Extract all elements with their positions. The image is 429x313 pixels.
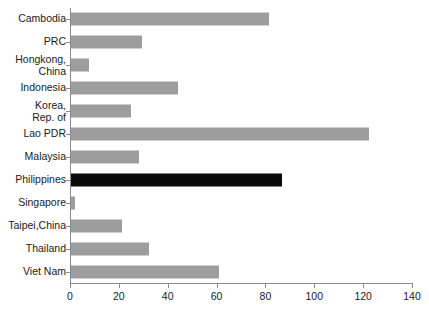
bar-row: Viet Nam — [0, 260, 429, 283]
y-axis-tick — [66, 203, 71, 204]
bar — [71, 82, 178, 95]
x-axis-tick-mark — [217, 283, 218, 288]
x-axis-ticks: 020406080100120140 — [0, 283, 429, 313]
x-axis-tick-label: 140 — [403, 290, 421, 302]
y-axis-tick — [66, 157, 71, 158]
x-axis-tick-mark — [70, 283, 71, 288]
y-axis-tick — [66, 65, 71, 66]
bar-row: Philippines — [0, 168, 429, 191]
y-axis-tick — [66, 111, 71, 112]
bar — [71, 150, 139, 163]
category-label: Philippines — [0, 174, 66, 186]
category-label: Korea, Rep. of — [0, 100, 66, 123]
x-axis-tick-label: 120 — [354, 290, 372, 302]
category-label: Viet Nam — [0, 266, 66, 278]
y-axis-tick — [66, 180, 71, 181]
bar — [71, 105, 131, 118]
x-axis-tick-label: 40 — [162, 290, 174, 302]
bar-row: Thailand — [0, 237, 429, 260]
bar-row: Korea, Rep. of — [0, 100, 429, 123]
y-axis-tick — [66, 19, 71, 20]
y-axis-tick — [66, 42, 71, 43]
bar — [71, 173, 282, 186]
category-label: Taipei,China — [0, 220, 66, 232]
x-axis-tick-mark — [314, 283, 315, 288]
x-axis-tick-label: 100 — [306, 290, 324, 302]
category-label: Singapore — [0, 197, 66, 209]
x-axis-tick-label: 20 — [113, 290, 125, 302]
category-label: Thailand — [0, 243, 66, 255]
x-axis-tick-mark — [363, 283, 364, 288]
bar-row: Indonesia — [0, 77, 429, 100]
bar-row: PRC — [0, 31, 429, 54]
bar — [71, 13, 269, 26]
x-axis-tick-mark — [265, 283, 266, 288]
category-label: Cambodia — [0, 14, 66, 26]
x-axis-tick-mark — [168, 283, 169, 288]
x-axis-tick-label: 80 — [260, 290, 272, 302]
x-axis-tick-label: 60 — [211, 290, 223, 302]
bar-rows: CambodiaPRCHongkong, ChinaIndonesiaKorea… — [0, 8, 429, 283]
bar — [71, 59, 89, 72]
y-axis-tick — [66, 134, 71, 135]
bar-row: Cambodia — [0, 8, 429, 31]
bar — [71, 265, 219, 278]
category-label: Hongkong, China — [0, 54, 66, 77]
bar-row: Lao PDR — [0, 123, 429, 146]
x-axis-tick-label: 0 — [67, 290, 73, 302]
x-axis-tick-mark — [412, 283, 413, 288]
category-label: PRC — [0, 37, 66, 49]
y-axis-tick — [66, 249, 71, 250]
bar-row: Singapore — [0, 191, 429, 214]
bar — [71, 36, 142, 49]
y-axis-tick — [66, 226, 71, 227]
y-axis-tick — [66, 272, 71, 273]
horizontal-bar-chart: CambodiaPRCHongkong, ChinaIndonesiaKorea… — [0, 0, 429, 313]
bar-row: Malaysia — [0, 146, 429, 169]
bar — [71, 242, 149, 255]
x-axis-tick-mark — [119, 283, 120, 288]
y-axis-tick — [66, 88, 71, 89]
bar — [71, 219, 122, 232]
category-label: Malaysia — [0, 151, 66, 163]
bar — [71, 128, 369, 141]
bar-row: Taipei,China — [0, 214, 429, 237]
bar-row: Hongkong, China — [0, 54, 429, 77]
category-label: Indonesia — [0, 82, 66, 94]
category-label: Lao PDR — [0, 128, 66, 140]
bar — [71, 196, 75, 209]
